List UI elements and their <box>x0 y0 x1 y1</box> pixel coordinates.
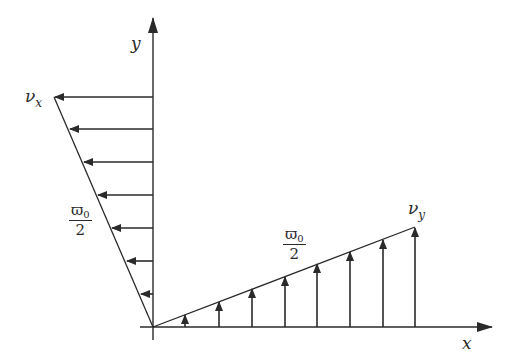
slope-left-numerator: ϖ0 <box>69 203 92 221</box>
vy-label-sub: y <box>418 208 425 222</box>
vx-label-sub: x <box>35 96 42 110</box>
vy-label: νy <box>408 200 425 217</box>
slope-left-denominator: 2 <box>69 221 92 238</box>
slope-left-fraction: ϖ0 2 <box>69 203 92 238</box>
vy-label-main: ν <box>408 198 418 218</box>
vx-arrows <box>55 97 153 294</box>
slope-right-denominator: 2 <box>283 245 306 262</box>
x-axis-label: x <box>462 335 472 352</box>
slope-right-numerator: ϖ0 <box>283 227 306 245</box>
vx-label-main: ν <box>25 86 35 106</box>
y-axis-label: y <box>131 35 141 52</box>
diagram-canvas <box>0 0 519 362</box>
slope-right-fraction: ϖ0 2 <box>283 227 306 262</box>
vx-label: νx <box>25 88 42 105</box>
